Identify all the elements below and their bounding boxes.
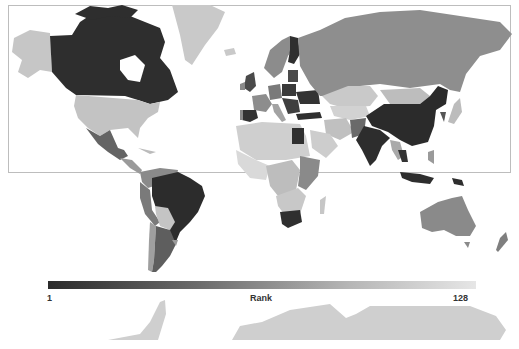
region-italy[interactable]	[272, 104, 286, 122]
region-greenland[interactable]	[172, 5, 225, 65]
region-japan[interactable]	[448, 98, 462, 124]
region-alaska[interactable]	[12, 30, 52, 78]
region-spain[interactable]	[242, 110, 258, 122]
region-iceland[interactable]	[224, 48, 236, 56]
region-central-america[interactable]	[120, 158, 142, 174]
region-papua[interactable]	[452, 178, 464, 186]
region-ireland[interactable]	[240, 82, 245, 90]
region-korea[interactable]	[440, 112, 446, 122]
region-indonesia[interactable]	[400, 172, 434, 184]
region-antarctica-peninsula[interactable]	[108, 300, 166, 340]
region-poland[interactable]	[282, 84, 296, 96]
region-caribbean[interactable]	[138, 148, 156, 154]
legend-title: Rank	[236, 293, 286, 303]
region-philippines[interactable]	[428, 150, 434, 164]
region-antarctica[interactable]	[232, 304, 506, 340]
region-australia[interactable]	[420, 196, 476, 236]
region-turkey[interactable]	[296, 112, 322, 120]
region-ukraine[interactable]	[296, 90, 320, 104]
region-mongolia[interactable]	[380, 88, 430, 104]
region-madagascar[interactable]	[320, 196, 326, 214]
region-egypt[interactable]	[292, 128, 304, 144]
region-france[interactable]	[252, 94, 272, 112]
legend-min-label: 1	[47, 293, 52, 303]
legend-color-scale	[48, 281, 476, 289]
region-russia[interactable]	[298, 10, 512, 96]
region-baltics[interactable]	[288, 70, 298, 82]
region-uk[interactable]	[244, 72, 256, 92]
region-east-africa[interactable]	[298, 156, 320, 190]
region-tasmania[interactable]	[464, 242, 470, 248]
region-south-africa[interactable]	[280, 210, 302, 228]
legend-max-label: 128	[453, 293, 468, 303]
region-portugal[interactable]	[240, 110, 243, 120]
region-new-zealand[interactable]	[496, 232, 508, 252]
region-balkans[interactable]	[282, 98, 300, 114]
region-canada[interactable]	[50, 10, 178, 104]
region-germany[interactable]	[268, 84, 282, 100]
region-india[interactable]	[356, 126, 390, 166]
region-central-asia[interactable]	[330, 106, 370, 120]
region-mexico[interactable]	[86, 128, 128, 160]
